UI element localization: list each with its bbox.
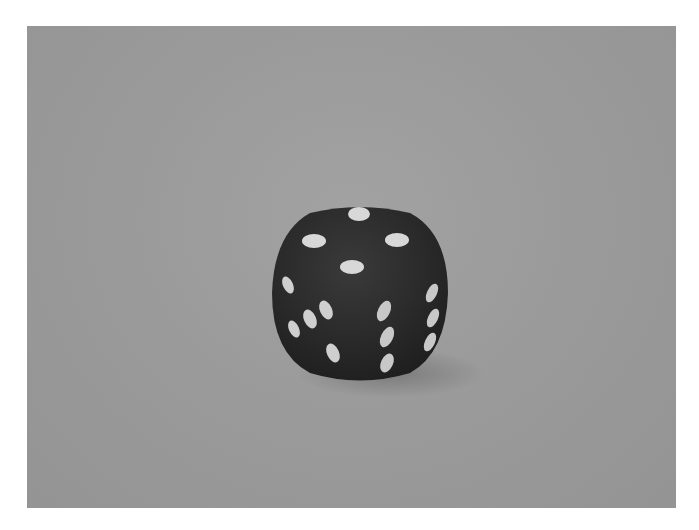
photo bbox=[27, 26, 676, 508]
die-icon bbox=[270, 203, 450, 383]
die bbox=[270, 203, 450, 383]
